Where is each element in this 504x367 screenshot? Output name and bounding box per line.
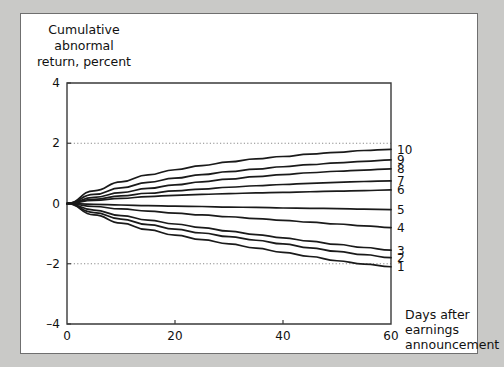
svg-text:20: 20: [167, 329, 182, 343]
svg-text:40: 40: [275, 329, 290, 343]
svg-text:1: 1: [397, 260, 405, 274]
figure-panel: Cumulative abnormal return, percent Days…: [20, 13, 478, 354]
svg-text:0: 0: [52, 197, 60, 211]
svg-text:2: 2: [52, 136, 60, 150]
svg-text:4: 4: [397, 221, 405, 235]
series-labels: 10987654321: [397, 143, 412, 274]
chart-plot: 420–2–40204060 10987654321: [21, 14, 479, 355]
svg-text:4: 4: [52, 76, 60, 90]
svg-text:–4: –4: [46, 317, 60, 331]
svg-text:60: 60: [383, 329, 398, 343]
svg-text:0: 0: [63, 329, 71, 343]
svg-text:6: 6: [397, 183, 405, 197]
svg-text:5: 5: [397, 203, 405, 217]
series-lines: [67, 149, 391, 266]
axis-lines: [67, 83, 391, 324]
svg-text:–2: –2: [46, 257, 60, 271]
